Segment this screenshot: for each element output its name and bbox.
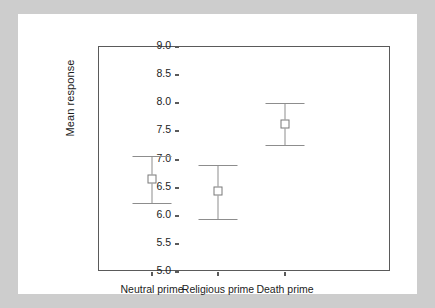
x-axis-tick-mark — [217, 272, 219, 276]
y-axis-tick-label: 6.0 — [156, 208, 171, 220]
y-axis-tick-mark — [175, 102, 179, 104]
y-axis-tick-mark — [175, 74, 179, 76]
figure-outer-background: Mean response 9.08.58.07.57.06.56.05.55.… — [0, 0, 435, 308]
y-axis-tick-mark — [175, 243, 179, 245]
errorbar-cap-upper — [133, 156, 172, 157]
figure-panel: Mean response 9.08.58.07.57.06.56.05.55.… — [18, 14, 417, 294]
y-axis-tick-mark — [175, 215, 179, 217]
y-axis-tick-mark — [175, 159, 179, 161]
plot-area: 9.08.58.07.57.06.56.05.55.0 Neutral prim… — [98, 46, 390, 271]
y-axis-tick-label: 5.0 — [156, 264, 171, 276]
errorbar-cap-upper — [199, 165, 238, 166]
y-axis-tick-label: 6.5 — [156, 180, 171, 192]
x-axis-tick-label: Death prime — [220, 283, 350, 295]
errorbar-cap-lower — [133, 203, 172, 204]
x-axis-tick-mark — [151, 272, 153, 276]
data-point-marker — [281, 120, 290, 129]
y-axis-tick-label: 7.0 — [156, 152, 171, 164]
errorbar-cap-lower — [199, 219, 238, 220]
y-axis-tick-label: 8.5 — [156, 67, 171, 79]
y-axis-tick-mark — [175, 46, 179, 48]
x-axis-tick-mark — [284, 272, 286, 276]
y-axis-tick-mark — [175, 271, 179, 273]
errorbar-cap-upper — [266, 103, 305, 104]
y-axis-title: Mean response — [64, 38, 76, 158]
y-axis-tick-label: 7.5 — [156, 123, 171, 135]
data-point-marker — [214, 187, 223, 196]
errorbar-cap-lower — [266, 145, 305, 146]
data-point-marker — [148, 175, 157, 184]
y-axis-tick-mark — [175, 187, 179, 189]
y-axis-tick-label: 8.0 — [156, 95, 171, 107]
y-axis-tick-mark — [175, 130, 179, 132]
y-axis-tick-label: 9.0 — [156, 39, 171, 51]
y-axis-tick-label: 5.5 — [156, 236, 171, 248]
